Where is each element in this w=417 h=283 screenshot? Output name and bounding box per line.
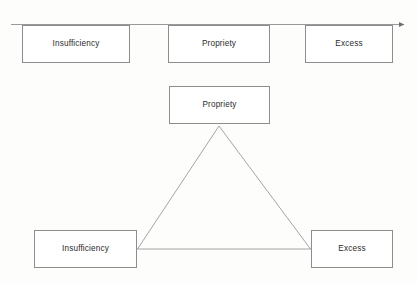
axis-node-excess-label: Excess [335,40,362,48]
triangle-node-insufficiency: Insufficiency [34,230,137,268]
triangle-node-excess: Excess [311,230,393,268]
axis-node-propriety-label: Propriety [202,40,236,48]
axis-node-excess: Excess [305,25,393,63]
axis-node-insufficiency-label: Insufficiency [53,40,100,48]
diagram-canvas: Insufficiency Propriety Excess Propriety… [0,0,417,283]
axis-node-propriety: Propriety [168,25,270,63]
triangle-node-insufficiency-label: Insufficiency [62,245,109,253]
triangle-node-propriety-label: Propriety [202,101,236,109]
triangle-node-excess-label: Excess [338,245,365,253]
triangle-left-edge [138,126,220,249]
axis-node-insufficiency: Insufficiency [22,25,130,63]
triangle-right-edge [219,126,311,249]
triangle-node-propriety: Propriety [169,86,270,124]
